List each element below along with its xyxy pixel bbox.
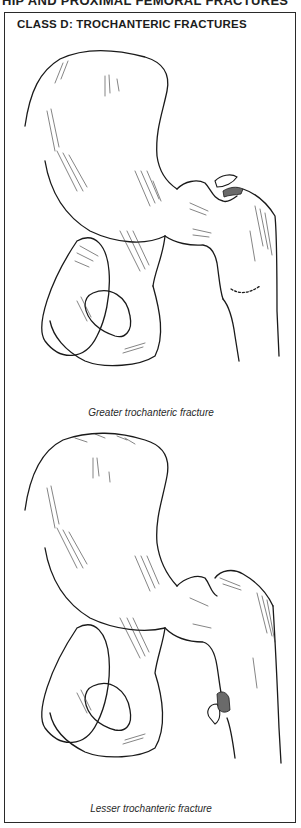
hip-bone-illustration-icon xyxy=(5,31,297,371)
caption-greater-trochanteric-fracture: Greater trochanteric fracture xyxy=(5,407,297,418)
running-header: HIP AND PROXIMAL FEMORAL FRACTURES xyxy=(2,0,301,8)
caption-lesser-trochanteric-fracture: Lesser trochanteric fracture xyxy=(5,803,297,814)
lesser-trochanteric-fracture-illustration xyxy=(5,428,297,778)
figure-panel: CLASS D: TROCHANTERIC FRACTURES xyxy=(4,12,296,823)
hip-bone-illustration-icon xyxy=(5,428,297,778)
greater-trochanteric-fracture-illustration xyxy=(5,31,297,371)
panel-title: CLASS D: TROCHANTERIC FRACTURES xyxy=(17,18,247,30)
